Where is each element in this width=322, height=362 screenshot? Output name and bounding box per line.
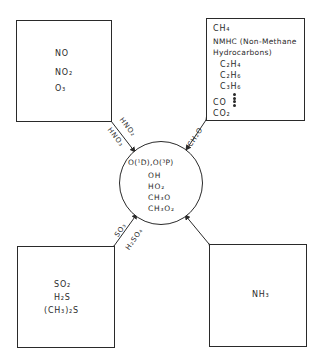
radical-pool-circle: O(¹D),O(³P) OH HO₂ CH₃O CH₃O₂ <box>119 141 203 225</box>
species-nh3: NH₃ <box>252 291 270 299</box>
species-nmhc: NMHC (Non-Methane <box>213 38 297 46</box>
species-o3: O₃ <box>55 85 66 93</box>
species-co2: CO₂ <box>213 110 231 118</box>
species-co: CO <box>213 99 226 107</box>
species-c3h6: C₃H₆ <box>220 83 241 91</box>
nitrogen-oxides-box: NO NO₂ O₃ <box>16 20 112 122</box>
species-c2h6: C₂H₆ <box>220 72 241 80</box>
sulfur-species-box: SO₂ H₂S (CH₃)₂S <box>17 246 115 348</box>
species-dms: (CH₃)₂S <box>44 307 79 315</box>
species-ch4: CH₄ <box>213 25 230 33</box>
species-oh: OH <box>148 172 161 180</box>
species-ch3o: CH₃O <box>148 194 171 202</box>
center-title: O(¹D),O(³P) <box>128 159 174 167</box>
species-no2: NO₂ <box>55 69 73 77</box>
species-no: NO <box>55 50 69 58</box>
ammonia-link <box>185 215 209 244</box>
species-so2: SO₂ <box>54 281 71 289</box>
species-c2h4: C₂H₄ <box>220 61 241 69</box>
ammonia-box: NH₃ <box>209 244 307 347</box>
species-h2s: H₂S <box>54 294 71 302</box>
carbon-species-box: CH₄ NMHC (Non-Methane Hydrocarbons) C₂H₄… <box>206 18 305 121</box>
ellipsis-dots <box>233 93 236 107</box>
species-ho2: HO₂ <box>148 183 165 191</box>
species-nmhc-cont: Hydrocarbons) <box>213 49 272 57</box>
species-ch3o2: CH₃O₂ <box>148 205 175 213</box>
